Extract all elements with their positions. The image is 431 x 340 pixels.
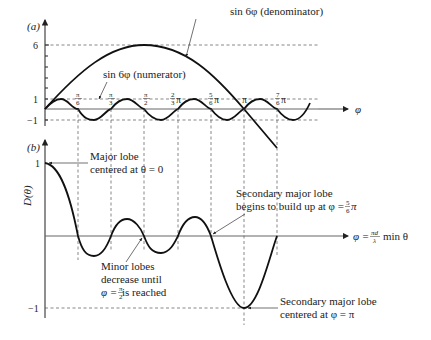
- y-axis-label-d-theta: D(θ): [21, 185, 34, 207]
- build-up-label-1: Secondary major lobe: [236, 187, 333, 199]
- panel-a: (a) 6 1 −1 φ π 6 π 3 π 2 2 3 π 5 6 π π 7: [27, 5, 361, 148]
- y-tick-m1: −1: [27, 115, 38, 126]
- svg-text:6: 6: [76, 99, 80, 107]
- build-up-label-2: begins to build up at φ = 5 6 π: [236, 199, 357, 215]
- minor-lobes-label-1: Minor lobes: [101, 260, 154, 272]
- x-axis-label-b: φ = πd λ min θ: [353, 229, 408, 245]
- svg-text:π: π: [176, 94, 181, 105]
- svg-text:λ: λ: [372, 237, 376, 245]
- svg-text:6: 6: [346, 207, 350, 215]
- secondary-lobe-label-2: centered at φ = π: [280, 308, 355, 320]
- svg-text:φ =: φ =: [353, 230, 369, 242]
- svg-text:3: 3: [171, 99, 175, 107]
- svg-text:2: 2: [171, 91, 175, 99]
- panel-a-label: (a): [27, 20, 40, 33]
- svg-text:π: π: [144, 91, 148, 99]
- svg-text:5: 5: [209, 91, 213, 99]
- minor-lobes-label-2: decrease until: [101, 273, 162, 285]
- panel-b: (b) 1 −1 D(θ) φ = πd λ min θ Major lobe …: [21, 140, 408, 320]
- svg-text:π: π: [76, 91, 80, 99]
- svg-text:πd: πd: [371, 229, 379, 237]
- svg-text:π: π: [351, 200, 357, 212]
- denominator-label: sin 6φ (denominator): [230, 5, 323, 18]
- y-tick-b-1: 1: [35, 158, 40, 169]
- svg-text:min θ: min θ: [383, 230, 408, 242]
- svg-text:3: 3: [109, 99, 113, 107]
- svg-text:π: π: [214, 94, 219, 105]
- svg-text:is reached: is reached: [122, 286, 167, 298]
- svg-text:φ =: φ =: [101, 286, 117, 298]
- figure-canvas: (a) 6 1 −1 φ π 6 π 3 π 2 2 3 π 5 6 π π 7: [0, 0, 431, 340]
- svg-text:π: π: [242, 94, 247, 105]
- minor-lobes-pointer: [126, 238, 142, 262]
- major-lobe-label-1: Major lobe: [90, 150, 139, 162]
- major-lobe-label-2: centered at θ = 0: [90, 163, 164, 175]
- panel-b-label: (b): [27, 141, 40, 154]
- svg-text:6: 6: [209, 99, 213, 107]
- secondary-lobe-label-1: Secondary major lobe: [280, 295, 377, 307]
- svg-text:6: 6: [276, 99, 280, 107]
- svg-text:5: 5: [346, 199, 350, 207]
- build-up-pointer: [213, 214, 245, 234]
- svg-text:π: π: [109, 91, 113, 99]
- y-tick-6: 6: [33, 40, 38, 51]
- numerator-label: sin 6φ (numerator): [103, 68, 186, 81]
- denominator-pointer: [186, 19, 196, 57]
- y-tick-1: 1: [33, 94, 38, 105]
- svg-text:7: 7: [276, 91, 280, 99]
- x-axis-label-phi: φ: [355, 103, 361, 115]
- y-tick-b-m1: −1: [28, 303, 39, 314]
- svg-text:begins to build up at φ =: begins to build up at φ =: [236, 200, 344, 212]
- numerator-pointer: [99, 82, 107, 99]
- minor-lobes-label-3: φ = π 2 is reached: [101, 285, 167, 301]
- svg-text:π: π: [281, 94, 286, 105]
- svg-text:2: 2: [144, 99, 148, 107]
